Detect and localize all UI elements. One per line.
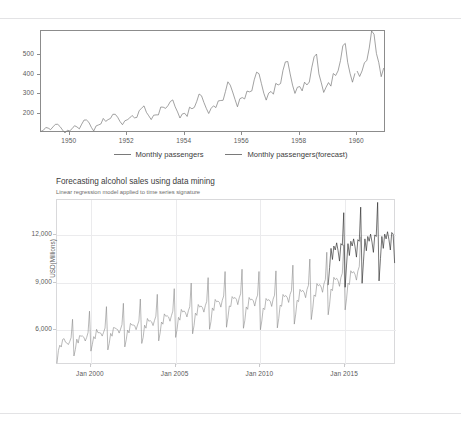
- passengers-x-tick-label: 1960: [344, 137, 368, 144]
- passengers-plot-area: [40, 30, 385, 132]
- legend-label-forecast: Monthly passengers(forecast): [247, 150, 347, 159]
- legend-label-actual: Monthly passengers: [136, 150, 204, 159]
- passengers-y-tick-label: 400: [8, 70, 34, 77]
- alcohol-y-tick-label: 6,000: [22, 325, 52, 332]
- alcohol-x-tick-label: Jan 2015: [326, 370, 362, 377]
- alcohol-plot-area: USD(Millions): [56, 199, 395, 364]
- alcohol-x-tick-mark: [175, 364, 176, 367]
- passengers-y-tick-mark: [37, 93, 40, 94]
- passengers-x-tick-label: 1950: [57, 137, 81, 144]
- alcohol-y-tick-label: 12,000: [22, 230, 52, 237]
- alcohol-y-tick-mark: [53, 329, 56, 330]
- alcohol-series-lines: [57, 200, 396, 365]
- alcohol-x-tick-label: Jan 2010: [241, 370, 277, 377]
- passengers-x-tick-mark: [184, 132, 185, 135]
- alcohol-chart-subtitle: Linear regression model applied to time …: [56, 189, 200, 195]
- alcohol-x-tick-mark: [344, 364, 345, 367]
- alcohol-x-tick-mark: [259, 364, 260, 367]
- alcohol-y-tick-mark: [53, 282, 56, 283]
- passengers-y-tick-label: 500: [8, 50, 34, 57]
- legend-item-forecast: Monthly passengers(forecast): [225, 150, 347, 159]
- passengers-x-tick-mark: [241, 132, 242, 135]
- alcohol-x-tick-label: Jan 2005: [157, 370, 193, 377]
- passengers-x-tick-label: 1952: [114, 137, 138, 144]
- passengers-x-tick-mark: [69, 132, 70, 135]
- passengers-y-tick-mark: [37, 113, 40, 114]
- alcohol-y-tick-label: 9,000: [22, 278, 52, 285]
- passengers-x-tick-label: 1956: [229, 137, 253, 144]
- passengers-x-tick-label: 1958: [287, 137, 311, 144]
- passengers-x-tick-label: 1954: [172, 137, 196, 144]
- passengers-series-lines: [41, 31, 386, 133]
- passengers-figure: 200300400500 195019521954195619581960 Mo…: [0, 22, 461, 167]
- passengers-x-tick-mark: [299, 132, 300, 135]
- alcohol-y-tick-mark: [53, 234, 56, 235]
- passengers-x-tick-mark: [356, 132, 357, 135]
- bottom-divider: [0, 413, 461, 414]
- chart-page: 200300400500 195019521954195619581960 Mo…: [0, 0, 461, 432]
- legend-line-icon: [114, 154, 131, 155]
- alcohol-x-tick-mark: [90, 364, 91, 367]
- alcohol-figure: Forecasting alcohol sales using data min…: [0, 172, 461, 412]
- passengers-y-tick-mark: [37, 74, 40, 75]
- legend-item-actual: Monthly passengers: [114, 150, 204, 159]
- passengers-legend: Monthly passengers Monthly passengers(fo…: [0, 150, 461, 159]
- alcohol-x-tick-label: Jan 2000: [72, 370, 108, 377]
- passengers-y-tick-label: 300: [8, 89, 34, 96]
- passengers-y-tick-label: 200: [8, 109, 34, 116]
- passengers-x-tick-mark: [126, 132, 127, 135]
- alcohol-chart-title: Forecasting alcohol sales using data min…: [56, 177, 215, 186]
- top-divider: [0, 18, 461, 19]
- passengers-y-tick-mark: [37, 54, 40, 55]
- legend-line-icon: [225, 154, 242, 155]
